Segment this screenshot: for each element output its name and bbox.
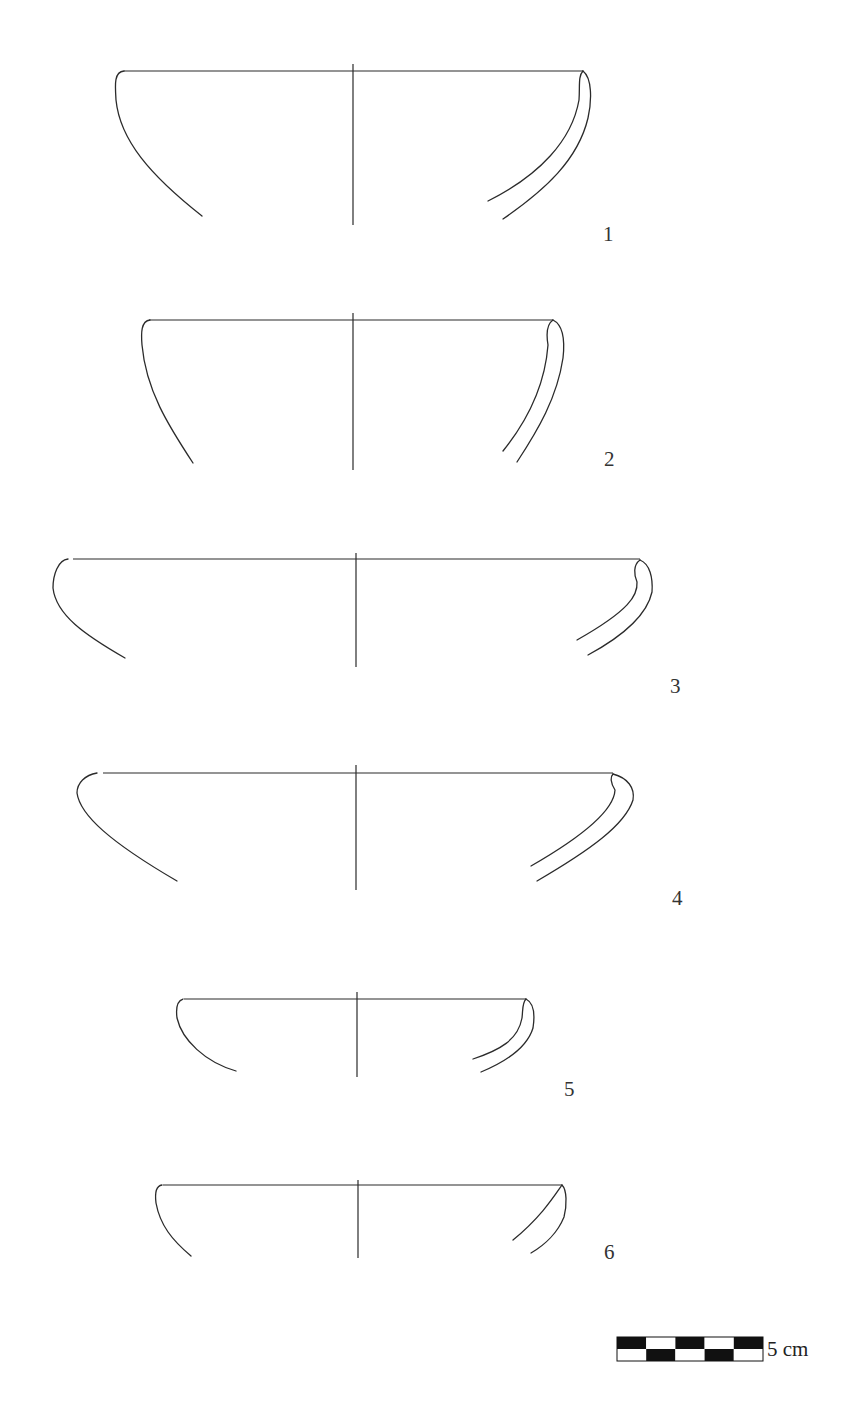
left-profile-curve xyxy=(177,999,236,1071)
scale-bar-label: 5 cm xyxy=(767,1339,808,1360)
vessel-number-label: 5 xyxy=(564,1079,575,1100)
vessel-3-profile xyxy=(53,553,652,667)
vessel-number-label: 4 xyxy=(672,888,683,909)
right-outer-wall-curve xyxy=(517,320,564,462)
left-profile-curve xyxy=(156,1185,191,1256)
right-outer-wall-curve xyxy=(588,560,652,655)
left-profile-curve xyxy=(142,320,193,463)
vessel-number-label: 6 xyxy=(604,1242,615,1263)
right-outer-wall-curve xyxy=(503,71,591,219)
right-inner-wall-curve xyxy=(488,71,583,201)
vessel-number-label: 2 xyxy=(604,449,615,470)
right-inner-wall-curve xyxy=(503,320,553,451)
vessel-number-label: 3 xyxy=(670,676,681,697)
vessel-1-profile xyxy=(115,64,590,225)
vessel-4-profile xyxy=(77,765,633,890)
pottery-profile-plate xyxy=(0,0,863,1423)
scale-bar xyxy=(617,1337,763,1361)
right-inner-wall-curve xyxy=(577,560,640,640)
left-profile-curve xyxy=(53,559,125,658)
right-outer-wall-curve xyxy=(537,774,633,881)
left-profile-curve xyxy=(77,773,177,881)
vessel-number-label: 1 xyxy=(603,224,614,245)
right-inner-wall-curve xyxy=(513,1185,562,1240)
vessel-6-profile xyxy=(156,1180,567,1258)
vessel-5-profile xyxy=(177,992,534,1077)
right-inner-wall-curve xyxy=(531,774,615,866)
left-profile-curve xyxy=(115,71,202,216)
right-outer-wall-curve xyxy=(481,999,534,1072)
vessel-2-profile xyxy=(142,313,564,470)
